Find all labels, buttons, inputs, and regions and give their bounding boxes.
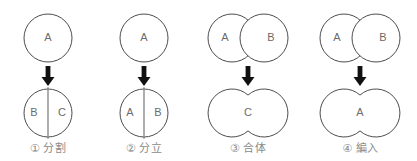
panel-3-graphic: A B C — [192, 0, 304, 139]
panel-4-caption-label: 編入 — [356, 142, 379, 154]
panel-1-caption-number: ① — [30, 142, 40, 154]
before-circle-left-label: A — [333, 31, 341, 43]
before-circle-right — [352, 14, 400, 62]
after-merged-shape-label: A — [356, 106, 364, 118]
panel-3-caption-label: 合体 — [243, 142, 266, 154]
down-arrow-icon — [138, 66, 151, 86]
panel-separation: A A B ②分立 — [96, 0, 192, 161]
panel-2-graphic: A A B — [96, 0, 192, 139]
panel-2-caption-label: 分立 — [139, 142, 162, 154]
down-arrow-icon — [354, 66, 367, 86]
before-circle-right-label: B — [267, 31, 275, 43]
panel-4-caption: ④編入 — [304, 139, 417, 155]
panel-incorporation: A B A ④編入 — [304, 0, 417, 161]
before-circle-right-label: B — [379, 31, 387, 43]
panel-1-graphic: A B C — [0, 0, 96, 139]
panel-3-caption: ③合体 — [192, 139, 304, 155]
after-circle-label-right: C — [58, 106, 66, 118]
before-circle-left-label: A — [221, 31, 229, 43]
after-merged-shape-label: C — [244, 106, 252, 118]
after-circle-label-right: B — [154, 106, 162, 118]
panel-3-caption-number: ③ — [230, 142, 240, 154]
before-circle-right — [240, 14, 288, 62]
panel-1-caption-label: 分割 — [43, 142, 66, 154]
down-arrow-icon — [242, 66, 255, 86]
after-circle-label-left: A — [126, 106, 134, 118]
before-circle-label: A — [44, 31, 52, 43]
panel-division: A B C ①分割 — [0, 0, 96, 161]
panel-2-caption: ②分立 — [96, 139, 192, 155]
diagram-canvas: A B C ①分割 A A B — [0, 0, 417, 161]
panel-4-caption-number: ④ — [342, 142, 352, 154]
before-circle-label: A — [140, 31, 148, 43]
after-circle-label-left: B — [30, 106, 38, 118]
panel-merger: A B C ③合体 — [192, 0, 304, 161]
panel-4-graphic: A B A — [304, 0, 417, 139]
down-arrow-icon — [42, 66, 55, 86]
panel-2-caption-number: ② — [126, 142, 136, 154]
panel-1-caption: ①分割 — [0, 139, 96, 155]
